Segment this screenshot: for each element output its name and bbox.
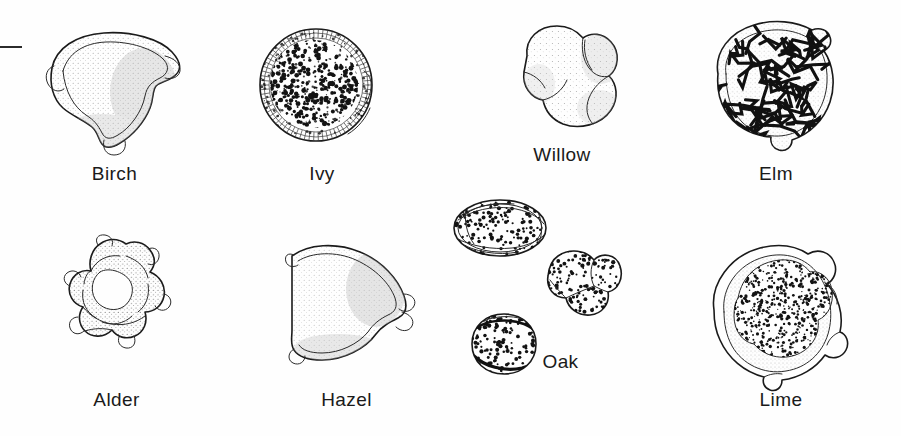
hazel-pollen-drawing: [278, 234, 426, 384]
oak-grain-polar: [545, 247, 623, 318]
specimen-lime: Lime: [698, 238, 860, 396]
elm-pollen-drawing: [700, 14, 852, 162]
specimen-willow: Willow: [503, 18, 631, 140]
specimen-label-willow: Willow: [498, 144, 626, 166]
specimen-label-alder: Alder: [34, 389, 199, 411]
specimen-label-oak: Oak: [478, 351, 643, 373]
specimen-label-elm: Elm: [700, 163, 852, 185]
ivy-pollen-drawing: [252, 22, 392, 154]
specimen-alder: Alder: [38, 232, 196, 387]
specimen-birch: Birch: [32, 22, 197, 162]
oak-grain-equatorial: [454, 200, 546, 256]
willow-pollen-drawing: [503, 18, 631, 140]
specimen-hazel: Hazel: [278, 234, 426, 384]
specimen-label-lime: Lime: [700, 389, 862, 411]
birch-pollen-drawing: [32, 22, 197, 162]
specimen-ivy: Ivy: [252, 22, 392, 154]
specimen-label-ivy: Ivy: [252, 163, 392, 185]
pollen-plate: Birch: [0, 0, 901, 436]
specimen-label-hazel: Hazel: [264, 389, 429, 411]
scale-bar-fragment: [0, 46, 22, 48]
specimen-elm: Elm: [700, 14, 852, 162]
specimen-oak: Oak: [452, 194, 622, 386]
specimen-label-birch: Birch: [32, 163, 197, 185]
alder-pollen-drawing: [38, 232, 196, 387]
lime-pollen-drawing: [698, 238, 860, 396]
